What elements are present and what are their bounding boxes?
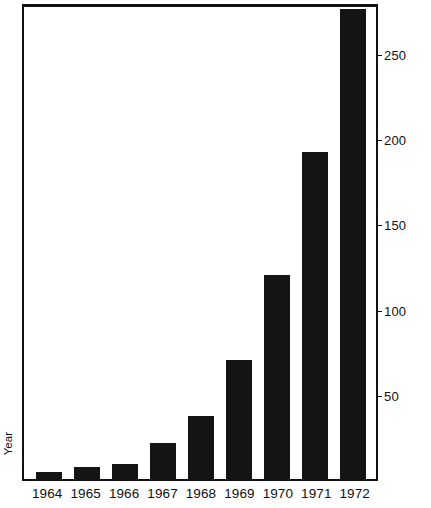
bar-chart-figure: Number of Alternative Public Schools in …: [0, 0, 431, 508]
bar-slot: [30, 7, 68, 479]
y-tick-label: 100: [384, 305, 406, 318]
bar-slot: [296, 7, 334, 479]
bar-slot: [68, 7, 106, 479]
bar-slot: [182, 7, 220, 479]
bar-slot: [258, 7, 296, 479]
bar[interactable]: [74, 467, 100, 479]
bar[interactable]: [188, 416, 214, 479]
x-axis: 196419651966196719681969197019711972: [22, 484, 378, 508]
y-tick-label: 150: [384, 219, 406, 232]
y-tick-mark: [378, 55, 382, 56]
y-tick-mark: [378, 225, 382, 226]
bar[interactable]: [264, 275, 290, 479]
x-tick-label: 1968: [182, 484, 220, 508]
bar-slot: [220, 7, 258, 479]
x-tick-label: 1966: [105, 484, 143, 508]
x-axis-title: Year: [2, 432, 15, 455]
bar[interactable]: [340, 9, 366, 479]
y-axis: Number of Alternative Public Schools in …: [378, 0, 431, 508]
y-tick-label: 50: [384, 390, 399, 403]
bar[interactable]: [302, 152, 328, 479]
x-tick-label: 1969: [220, 484, 258, 508]
x-tick-label: 1967: [143, 484, 181, 508]
x-tick-label: 1972: [336, 484, 374, 508]
bars-layer: [24, 7, 376, 479]
bar-slot: [334, 7, 372, 479]
bar-slot: [106, 7, 144, 479]
bar[interactable]: [150, 443, 176, 479]
x-tick-label: 1970: [259, 484, 297, 508]
y-tick-mark: [378, 311, 382, 312]
y-tick-label: 250: [384, 49, 406, 62]
bar[interactable]: [36, 472, 62, 479]
bar[interactable]: [112, 464, 138, 479]
y-tick-mark: [378, 396, 382, 397]
plot-area: [22, 4, 378, 481]
x-tick-label: 1971: [297, 484, 335, 508]
x-tick-label: 1965: [66, 484, 104, 508]
y-tick-mark: [378, 140, 382, 141]
y-tick-label: 200: [384, 134, 406, 147]
bar-slot: [144, 7, 182, 479]
bar[interactable]: [226, 360, 252, 479]
x-tick-label: 1964: [28, 484, 66, 508]
